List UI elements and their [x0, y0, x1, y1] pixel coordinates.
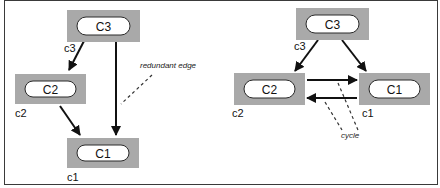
annotation-redundant-edge: redundant edge	[140, 61, 197, 70]
node-title: C1	[95, 147, 111, 161]
annotation-cycle: cycle	[341, 131, 360, 140]
node-title: C3	[96, 20, 112, 34]
node-title: C2	[262, 83, 278, 97]
node-label: c1	[362, 107, 374, 119]
node-label: c2	[15, 107, 27, 119]
edge-right-c3-to-c1	[342, 40, 366, 71]
node-label: c1	[67, 171, 79, 183]
annotation-leader-line	[325, 102, 342, 130]
node-left-c1: C1c1	[67, 138, 139, 183]
node-left-c3: C3c3	[64, 10, 140, 54]
node-left-c2: C2c2	[15, 74, 86, 119]
node-right-c1: C1c1	[359, 73, 430, 119]
node-title: C1	[387, 83, 403, 97]
annotation-leader-line	[121, 75, 152, 104]
node-label: c3	[294, 40, 306, 52]
edge-left-c2-to-c1	[60, 106, 80, 135]
node-right-c3: C3c3	[294, 8, 369, 52]
node-title: C2	[43, 83, 59, 97]
annotation-leader-line	[338, 83, 358, 130]
node-right-c2: C2c2	[232, 73, 305, 119]
diagram-canvas: C3c3C2c2C1c1C3c3C2c2C1c1 redundant edgec…	[0, 0, 440, 188]
node-label: c3	[64, 42, 76, 54]
node-label: c2	[232, 107, 244, 119]
node-title: C3	[325, 18, 341, 32]
